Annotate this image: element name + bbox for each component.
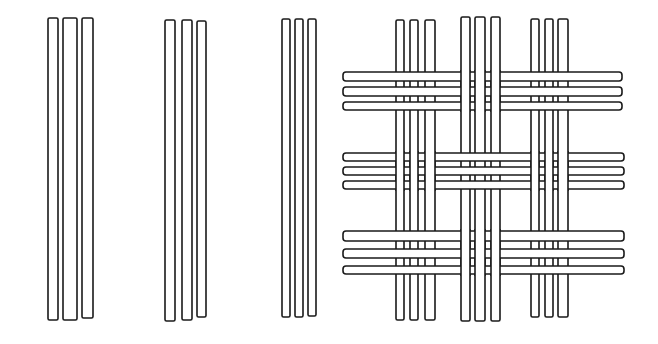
warp-over-segment (475, 229, 485, 276)
loose-warp-strips (48, 18, 316, 321)
warp-strip (82, 18, 93, 318)
warp-over-segment (425, 151, 435, 191)
warp-strip (182, 20, 192, 320)
weaving-diagram (0, 0, 658, 344)
warp-strip (282, 19, 290, 317)
warp-over-segment (545, 151, 553, 191)
weaving-diagram-canvas (0, 0, 658, 344)
warp-strip (197, 21, 206, 317)
warp-over-segment (531, 151, 539, 191)
weft-strip (343, 181, 624, 189)
weft-strip (343, 167, 624, 175)
warp-strip (295, 19, 303, 317)
warp-strip (63, 18, 77, 320)
warp-over-segment (410, 151, 418, 191)
warp-over-segment (491, 70, 500, 112)
warp-strip (48, 18, 58, 320)
weft-strip (343, 153, 624, 161)
woven-panel (343, 17, 624, 321)
warp-over-segment (461, 70, 470, 112)
warp-over-segment (475, 70, 485, 112)
warp-over-segment (558, 151, 568, 191)
warp-over-segment (461, 229, 470, 276)
warp-over-segment (491, 229, 500, 276)
warp-strip (308, 19, 316, 316)
warp-over-segment (396, 151, 404, 191)
warp-strip (165, 20, 175, 321)
